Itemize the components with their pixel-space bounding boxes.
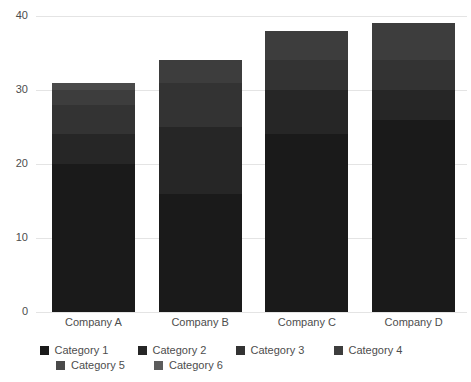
bar-segment-category-4[interactable]	[372, 23, 455, 60]
legend-item-category-5[interactable]: Category 5	[56, 360, 154, 371]
legend-item-category-2[interactable]: Category 2	[138, 345, 236, 356]
legend-item-category-1[interactable]: Category 1	[40, 345, 138, 356]
y-tick-label-40: 40	[0, 10, 28, 21]
x-tick-label-company-b: Company B	[147, 316, 254, 328]
legend-swatch-icon	[236, 346, 245, 355]
legend-swatch-icon	[154, 361, 163, 370]
y-tick-label-0: 0	[0, 306, 28, 317]
legend-label: Category 4	[349, 345, 403, 356]
bar-segment-category-3[interactable]	[52, 105, 135, 135]
chart-legend: Category 1Category 2Category 3Category 4…	[0, 343, 471, 373]
legend-item-category-6[interactable]: Category 6	[154, 360, 252, 371]
bar-segment-category-2[interactable]	[372, 90, 455, 120]
bar-segment-category-5[interactable]	[52, 83, 135, 90]
bar-segment-category-3[interactable]	[159, 83, 242, 127]
bar-company-c[interactable]	[265, 31, 348, 312]
stacked-bar-chart: 010203040 Company ACompany BCompany CCom…	[0, 0, 471, 382]
legend-swatch-icon	[334, 346, 343, 355]
legend-item-category-4[interactable]: Category 4	[334, 345, 432, 356]
bar-segment-category-2[interactable]	[265, 90, 348, 134]
bar-segment-category-3[interactable]	[265, 60, 348, 90]
bar-segment-category-4[interactable]	[265, 31, 348, 61]
plot-area: 010203040	[0, 0, 471, 330]
bar-company-a[interactable]	[52, 83, 135, 312]
bar-segment-category-2[interactable]	[52, 134, 135, 164]
bar-segment-category-1[interactable]	[159, 194, 242, 312]
gridline-0	[36, 312, 467, 313]
y-tick-label-10: 10	[0, 232, 28, 243]
legend-row-2: Category 5Category 6	[0, 358, 471, 373]
legend-swatch-icon	[56, 361, 65, 370]
bar-segment-category-1[interactable]	[265, 134, 348, 312]
legend-label: Category 6	[169, 360, 223, 371]
gridline-40	[36, 16, 467, 17]
bar-segment-category-1[interactable]	[52, 164, 135, 312]
legend-swatch-icon	[40, 346, 49, 355]
bar-company-d[interactable]	[372, 23, 455, 312]
bar-segment-category-4[interactable]	[52, 90, 135, 105]
legend-row-1: Category 1Category 2Category 3Category 4	[0, 343, 471, 358]
y-tick-label-30: 30	[0, 84, 28, 95]
legend-label: Category 5	[71, 360, 125, 371]
legend-label: Category 2	[153, 345, 207, 356]
x-tick-label-company-c: Company C	[254, 316, 361, 328]
x-tick-label-company-a: Company A	[40, 316, 147, 328]
bar-segment-category-3[interactable]	[372, 60, 455, 90]
x-tick-label-company-d: Company D	[360, 316, 467, 328]
bar-segment-category-2[interactable]	[159, 127, 242, 194]
bar-segment-category-1[interactable]	[372, 120, 455, 312]
y-tick-label-20: 20	[0, 158, 28, 169]
bar-segment-category-4[interactable]	[159, 60, 242, 82]
legend-item-category-3[interactable]: Category 3	[236, 345, 334, 356]
legend-swatch-icon	[138, 346, 147, 355]
bar-company-b[interactable]	[159, 60, 242, 312]
legend-label: Category 1	[55, 345, 109, 356]
legend-label: Category 3	[251, 345, 305, 356]
